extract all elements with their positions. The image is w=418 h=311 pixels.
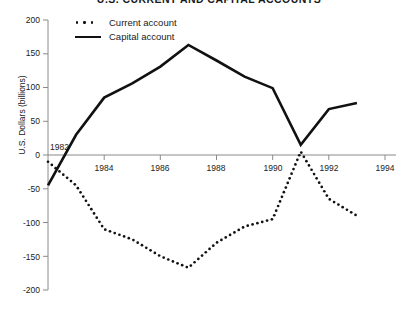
current-account-dot — [313, 173, 316, 176]
current-account-dot — [292, 168, 295, 171]
current-account-dot — [350, 211, 353, 214]
current-account-dot — [153, 252, 156, 255]
current-account-dot — [337, 203, 340, 206]
current-account-dot — [62, 173, 65, 176]
current-account-dot — [197, 258, 200, 261]
current-account-dot — [261, 221, 264, 224]
current-account-dot — [283, 191, 286, 194]
series-current-account — [47, 151, 357, 268]
current-account-dot — [298, 154, 301, 157]
current-account-dot — [320, 186, 323, 189]
current-account-dot — [87, 204, 90, 207]
current-account-dot — [193, 261, 196, 264]
current-account-dot — [266, 219, 269, 222]
current-account-dot — [318, 181, 321, 184]
current-account-dot — [328, 198, 331, 201]
current-account-dot — [224, 236, 227, 239]
current-account-dot — [109, 230, 112, 233]
current-account-dot — [288, 177, 291, 180]
current-account-dot — [77, 187, 80, 190]
current-account-dot — [149, 249, 152, 252]
current-account-dot — [181, 264, 184, 267]
current-account-dot — [141, 244, 144, 247]
current-account-dot — [323, 190, 326, 193]
current-account-dot — [73, 183, 76, 186]
series-capital-account — [48, 45, 357, 185]
current-account-dot — [176, 262, 179, 265]
current-account-dot — [98, 220, 101, 223]
current-account-dot — [220, 239, 223, 242]
current-account-dot — [136, 241, 139, 244]
current-account-dot — [290, 172, 293, 175]
current-account-dot — [208, 248, 211, 251]
current-account-dot — [167, 258, 170, 261]
current-account-dot — [113, 232, 116, 235]
current-account-dot — [54, 167, 57, 170]
current-account-dot — [158, 254, 161, 257]
current-account-dot — [237, 229, 240, 232]
current-account-dot — [273, 214, 276, 217]
current-account-dot — [212, 244, 215, 247]
current-account-dot — [275, 209, 278, 212]
current-account-dot — [201, 254, 204, 257]
current-account-dot — [305, 160, 308, 163]
current-account-dot — [315, 177, 318, 180]
current-account-dot — [90, 208, 93, 211]
current-account-dot — [281, 195, 284, 198]
current-account-dot — [162, 256, 165, 259]
current-account-dot — [47, 160, 50, 163]
current-account-dot — [118, 233, 121, 236]
current-account-dot — [242, 226, 245, 229]
current-account-dot — [185, 266, 188, 269]
y-axis-ticks — [43, 20, 48, 290]
current-account-dot — [101, 225, 104, 228]
current-account-dot — [286, 182, 289, 185]
current-account-dot — [277, 205, 280, 208]
capital-account-line — [48, 45, 357, 185]
current-account-dot — [93, 212, 96, 215]
current-account-dot — [346, 208, 349, 211]
current-account-dot — [354, 214, 357, 217]
current-account-dot — [50, 164, 53, 167]
chart-figure: U.S. CURRENT AND CAPITAL ACCOUNTS Curren… — [0, 0, 418, 311]
current-account-dot — [310, 168, 313, 171]
current-account-dot — [85, 199, 88, 202]
current-account-dot — [70, 180, 73, 183]
current-account-dot — [79, 191, 82, 194]
current-account-dot — [326, 194, 329, 197]
current-account-dot — [251, 223, 254, 226]
current-account-dot — [190, 264, 193, 267]
current-account-dot — [127, 237, 130, 240]
current-account-dot — [279, 200, 282, 203]
current-account-dot — [216, 241, 219, 244]
current-account-dot — [284, 186, 287, 189]
x-axis-ticks — [104, 155, 385, 160]
current-account-dot — [123, 235, 126, 238]
current-account-dot — [271, 218, 274, 221]
current-account-dot — [66, 176, 69, 179]
current-account-dot — [95, 216, 98, 219]
current-account-dot — [132, 239, 135, 242]
current-account-dot — [303, 156, 306, 159]
current-account-dot — [333, 201, 336, 204]
current-account-dot — [204, 251, 207, 254]
current-account-dot — [246, 224, 249, 227]
current-account-dot — [58, 170, 61, 173]
current-account-dot — [296, 159, 299, 162]
current-account-dot — [172, 260, 175, 263]
current-account-dot — [300, 151, 303, 154]
current-account-dot — [256, 222, 259, 225]
current-account-dot — [233, 231, 236, 234]
current-account-dot — [104, 228, 107, 231]
plot-area — [0, 0, 418, 311]
current-account-dot — [308, 164, 311, 167]
current-account-dot — [229, 234, 232, 237]
current-account-dot — [294, 163, 297, 166]
current-account-dot — [145, 246, 148, 249]
current-account-dot — [82, 195, 85, 198]
current-account-dot — [341, 206, 344, 209]
